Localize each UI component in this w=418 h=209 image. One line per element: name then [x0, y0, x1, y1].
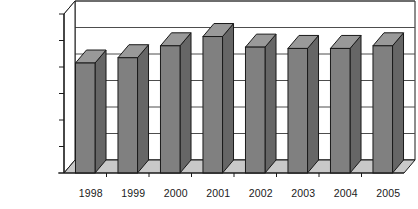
x-tick-label: 2002: [249, 187, 273, 199]
x-tick-label: 1998: [79, 187, 103, 199]
x-tick-label: 2001: [206, 187, 230, 199]
x-tick-label: 2000: [164, 187, 188, 199]
x-tick-label: 2005: [376, 187, 400, 199]
bar-chart: 0200,000400,000600,000800,0001,000,0001,…: [0, 0, 418, 209]
x-tick-label: 1999: [121, 187, 145, 199]
x-tick-label: 2004: [334, 187, 358, 199]
x-axis-tick-labels: 19981999200020012002200320042005: [0, 0, 418, 209]
x-tick-label: 2003: [291, 187, 315, 199]
